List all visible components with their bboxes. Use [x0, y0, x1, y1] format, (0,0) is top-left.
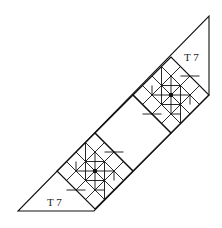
end-triangle-label-bottom: T 7 [47, 196, 62, 208]
pinwheel-center-dot [169, 93, 173, 97]
quilt-strip-diagram: T 7 T 7 [0, 0, 222, 228]
pinwheel-center-dot [93, 169, 97, 173]
end-triangle-label-top: T 7 [184, 51, 199, 63]
pinwheel-blocks [57, 57, 209, 209]
